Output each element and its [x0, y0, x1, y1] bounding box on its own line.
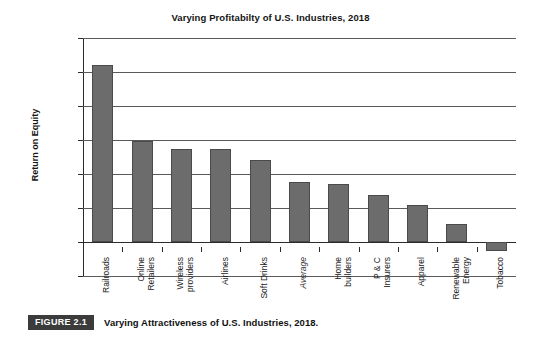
x-category-label: Home builders	[334, 257, 353, 319]
y-tick-mark	[78, 140, 83, 141]
figure-caption-text: Varying Attractiveness of U.S. Industrie…	[104, 317, 318, 328]
x-tick-mark	[240, 247, 241, 252]
x-category-label: P & C Insurers	[373, 257, 392, 319]
figure-caption: FIGURE 2.1 Varying Attractiveness of U.S…	[28, 315, 318, 330]
figure-container: Varying Profitabilty of U.S. Industries,…	[0, 0, 541, 338]
bar-soft-drinks[interactable]	[250, 160, 271, 242]
gridline	[83, 106, 516, 107]
x-tick-mark	[201, 247, 202, 252]
bar-wireless-providers[interactable]	[171, 149, 192, 243]
x-category-label: Soft Drinks	[260, 257, 270, 319]
figure-number-badge: FIGURE 2.1	[28, 315, 94, 330]
chart-title: Varying Profitabilty of U.S. Industries,…	[0, 12, 541, 23]
y-tick-mark	[78, 72, 83, 73]
y-axis-title: Return on Equity	[30, 75, 40, 215]
x-tick-mark	[398, 247, 399, 252]
bar-apparel[interactable]	[407, 205, 428, 242]
x-category-label: Wireless providers	[176, 257, 195, 319]
y-tick-mark	[78, 106, 83, 107]
bar-railroads[interactable]	[92, 65, 113, 242]
y-axis-bottom-tick	[78, 276, 83, 277]
bar-airlines[interactable]	[210, 149, 231, 242]
x-category-label: Tobacco	[496, 257, 506, 319]
gridline	[83, 38, 516, 39]
x-category-label: Online Retailers	[137, 257, 156, 319]
x-tick-mark	[359, 247, 360, 252]
x-category-label: Average	[299, 257, 309, 319]
x-tick-mark	[437, 247, 438, 252]
bar-renewable-energy[interactable]	[446, 224, 467, 242]
bar-home-builders[interactable]	[328, 184, 349, 242]
x-category-label: Railroads	[102, 257, 112, 319]
x-tick-mark	[477, 247, 478, 252]
gridline	[83, 242, 516, 243]
y-tick-mark	[78, 38, 83, 39]
gridline	[83, 72, 516, 73]
bar-average[interactable]	[289, 182, 310, 242]
bar-tobacco[interactable]	[486, 242, 507, 251]
x-category-label: Renewable Energy	[452, 257, 471, 319]
x-tick-mark	[122, 247, 123, 252]
bar-online-retailers[interactable]	[132, 141, 153, 242]
x-category-label: Airlines	[221, 257, 231, 319]
x-tick-mark	[162, 247, 163, 252]
plot-area	[83, 38, 516, 276]
y-tick-mark	[78, 208, 83, 209]
x-tick-mark	[319, 247, 320, 252]
y-tick-mark	[78, 242, 83, 243]
x-category-label: Apparel	[417, 257, 427, 319]
y-tick-mark	[78, 174, 83, 175]
x-tick-mark	[280, 247, 281, 252]
bar-p-c-insurers[interactable]	[368, 195, 389, 242]
